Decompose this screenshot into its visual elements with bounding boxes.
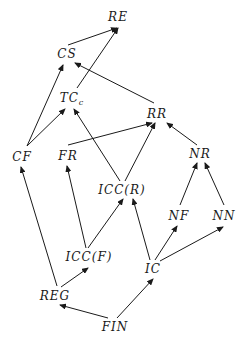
nodes-group: RECSTCcRRCFFRNRICC(R)NFNNICC(F)ICREGFIN xyxy=(12,10,235,334)
edge-fin-to-reg xyxy=(60,305,108,318)
edge-reg-to-iccf xyxy=(61,268,88,287)
edge-iccf-to-iccr xyxy=(88,199,123,248)
edge-cs-to-re xyxy=(68,28,117,45)
edge-ic-to-iccr xyxy=(133,199,150,260)
edge-cf-to-cs xyxy=(27,65,63,146)
edges-group xyxy=(21,28,224,318)
node-cf: CF xyxy=(12,150,32,164)
edge-nn-to-nr xyxy=(205,163,224,205)
edge-fr-to-rr xyxy=(68,123,152,145)
node-tcc: TCc xyxy=(60,91,85,107)
node-nr: NR xyxy=(188,147,211,161)
node-iccr: ICC(R) xyxy=(97,183,146,197)
edge-ic-to-nn xyxy=(160,227,223,261)
node-fr: FR xyxy=(57,149,77,163)
node-rr: RR xyxy=(146,107,167,121)
edge-nr-to-rr xyxy=(167,123,197,145)
node-reg: REG xyxy=(39,289,70,303)
node-fin: FIN xyxy=(101,320,129,334)
node-ic: IC xyxy=(144,262,161,276)
edge-reg-to-cf xyxy=(21,167,57,286)
edge-nf-to-nr xyxy=(180,163,197,205)
edge-rr-to-cs xyxy=(75,63,154,103)
edge-ic-to-nf xyxy=(155,226,177,260)
node-cs: CS xyxy=(57,47,76,61)
edge-fin-to-ic xyxy=(117,279,153,318)
node-nf: NF xyxy=(168,209,190,223)
edge-tcc-to-re xyxy=(77,28,118,88)
node-iccf: ICC(F) xyxy=(65,250,113,264)
node-re: RE xyxy=(107,10,128,24)
edge-iccr-to-tcc xyxy=(74,109,120,181)
lattice-diagram: RECSTCcRRCFFRNRICC(R)NFNNICC(F)ICREGFIN xyxy=(0,0,246,343)
edge-cf-to-tcc xyxy=(27,109,65,146)
edge-iccr-to-rr xyxy=(125,123,155,181)
node-nn: NN xyxy=(212,209,236,223)
node-subscript: c xyxy=(79,98,84,107)
edge-iccf-to-fr xyxy=(67,166,86,248)
